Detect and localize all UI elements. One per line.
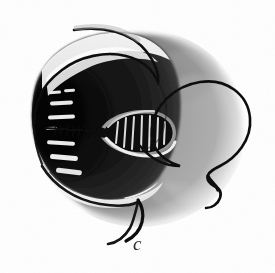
figure-container: c [0,0,275,273]
figure-label: c [0,234,275,254]
